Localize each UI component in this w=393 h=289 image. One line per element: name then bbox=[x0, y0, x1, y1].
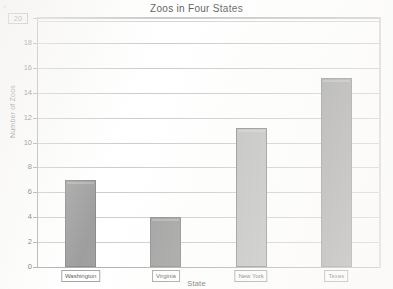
y-tick-mark bbox=[33, 242, 37, 243]
y-tick-mark bbox=[33, 192, 37, 193]
bar bbox=[236, 128, 267, 267]
y-tick-mark bbox=[33, 43, 37, 44]
y-tick-label: 14 bbox=[6, 88, 32, 97]
y-tick-mark bbox=[33, 143, 37, 144]
bar-highlight bbox=[238, 130, 265, 132]
gridline bbox=[38, 18, 379, 19]
y-tick-label: 4 bbox=[6, 212, 32, 221]
y-tick-label: 16 bbox=[6, 63, 32, 72]
gridline bbox=[38, 43, 379, 44]
bar-highlight bbox=[323, 80, 350, 82]
y-tick-mark bbox=[33, 267, 37, 268]
y-tick-mark bbox=[33, 68, 37, 69]
x-axis-title: State bbox=[0, 279, 393, 288]
y-tick-label: 10 bbox=[6, 138, 32, 147]
gridline bbox=[38, 68, 379, 69]
bar bbox=[65, 180, 96, 267]
y-tick-mark bbox=[33, 167, 37, 168]
bar-highlight bbox=[152, 219, 179, 221]
y-tick-label: 18 bbox=[6, 38, 32, 47]
y-tick-mark bbox=[33, 217, 37, 218]
y-tick-label: 8 bbox=[6, 162, 32, 171]
y-tick-mark bbox=[33, 18, 37, 19]
y-tick-label: 0 bbox=[6, 262, 32, 271]
plot-right-shadow bbox=[379, 17, 381, 268]
y-tick-mark bbox=[33, 93, 37, 94]
y-tick-label: 20 bbox=[8, 13, 28, 24]
y-tick-label: 6 bbox=[6, 187, 32, 196]
chart-title: Zoos in Four States bbox=[0, 3, 393, 14]
bar bbox=[150, 217, 181, 267]
y-tick-label: 12 bbox=[6, 113, 32, 122]
plot-top-inner-rule bbox=[37, 21, 380, 22]
y-tick-label: 2 bbox=[6, 237, 32, 246]
y-tick-mark bbox=[33, 118, 37, 119]
bar-chart: Zoos in Four States Number of Zoos 02468… bbox=[0, 0, 393, 289]
bar-highlight bbox=[67, 182, 94, 184]
bar bbox=[321, 78, 352, 267]
